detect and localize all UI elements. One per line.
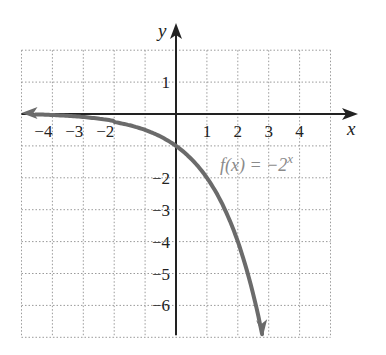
- y-tick-label: 1: [162, 73, 171, 92]
- y-tick-label: −6: [152, 296, 170, 315]
- x-tick-label: −3: [65, 122, 83, 141]
- y-tick-label: −4: [152, 233, 171, 252]
- function-curve: [35, 114, 262, 334]
- y-tick-label: −5: [152, 265, 170, 284]
- function-graph: −4−3−212341−2−3−4−5−6 x y f(x) = −2x: [0, 0, 386, 355]
- y-axis-label: y: [156, 20, 167, 41]
- x-tick-label: −2: [96, 122, 114, 141]
- axes: [22, 23, 359, 335]
- tick-labels: −4−3−212341−2−3−4−5−6: [34, 73, 304, 315]
- y-tick-label: −3: [152, 201, 170, 220]
- x-tick-label: 2: [234, 122, 243, 141]
- y-tick-label: −2: [152, 169, 170, 188]
- x-tick-label: 4: [295, 122, 304, 141]
- x-axis-label: x: [346, 118, 356, 139]
- function-label-exponent: x: [286, 151, 293, 166]
- x-tick-label: 3: [264, 122, 273, 141]
- x-tick-label: −4: [34, 122, 53, 141]
- x-tick-label: 1: [203, 122, 212, 141]
- function-label: f(x) = −2x: [220, 151, 293, 176]
- function-label-main: f(x) = −2: [220, 155, 287, 176]
